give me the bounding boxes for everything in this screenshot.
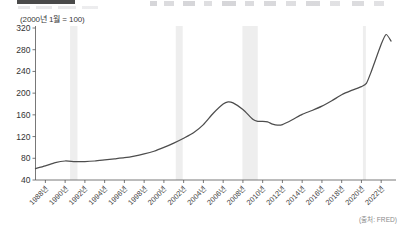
recession-band-2 (176, 26, 183, 180)
x-tick-label: 1992년 (67, 184, 90, 207)
x-tick-label: 1998년 (126, 184, 149, 207)
line-chart-plot: 40801201602002402803201988년1990년1992년199… (0, 0, 403, 231)
x-tick-label: 2006년 (205, 184, 228, 207)
y-tick-label: 120 (16, 132, 30, 142)
x-tick-label: 2000년 (146, 184, 169, 207)
x-tick-label: 2010년 (245, 184, 268, 207)
x-tick-label: 2014년 (284, 184, 307, 207)
recession-band-1 (70, 26, 77, 180)
y-tick-label: 200 (16, 88, 30, 98)
recession-band-3 (242, 26, 257, 180)
x-tick-label: 2012년 (264, 184, 287, 207)
chart-source-note: (출처: FRED) (359, 214, 397, 224)
x-tick-label: 2022년 (363, 184, 386, 207)
x-tick-label: 2008년 (225, 184, 248, 207)
y-tick-label: 320 (16, 23, 30, 33)
x-tick-label: 2016년 (304, 184, 327, 207)
y-tick-label: 280 (16, 45, 30, 55)
x-tick-label: 2018년 (324, 184, 347, 207)
x-tick-label: 1996년 (106, 184, 129, 207)
y-tick-label: 160 (16, 110, 30, 120)
y-tick-label: 80 (21, 153, 31, 163)
recession-band-4 (363, 26, 366, 180)
data-line-series (36, 34, 392, 168)
x-tick-label: 1990년 (47, 184, 70, 207)
chart-figure: (2000년 1월 = 100) 40801201602002402803201… (0, 0, 403, 231)
y-tick-label: 240 (16, 66, 30, 76)
x-tick-label: 2020년 (343, 184, 366, 207)
x-tick-label: 2004년 (185, 184, 208, 207)
x-tick-label: 2002년 (166, 184, 189, 207)
x-tick-label: 1994년 (87, 184, 110, 207)
x-tick-label: 1988년 (27, 184, 50, 207)
y-tick-label: 40 (21, 175, 31, 185)
